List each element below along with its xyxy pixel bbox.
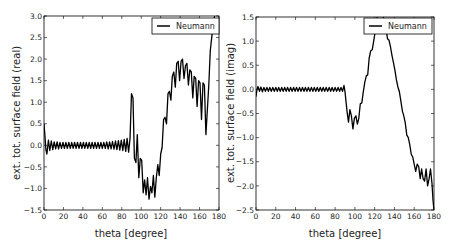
svg-text:2.5: 2.5	[30, 33, 42, 42]
legend-real: Neumann	[152, 18, 219, 34]
svg-text:180: 180	[427, 212, 442, 221]
chart-imag: 020406080100120140160180 −2.5−2.0−1.5−1.…	[225, 7, 441, 239]
svg-text:20: 20	[59, 212, 69, 221]
svg-text:−0.5: −0.5	[24, 163, 42, 172]
svg-text:120: 120	[154, 212, 169, 221]
svg-text:40: 40	[78, 212, 88, 221]
svg-text:0.0: 0.0	[242, 85, 254, 94]
svg-text:60: 60	[311, 212, 321, 221]
svg-text:140: 140	[173, 212, 188, 221]
svg-text:−2.5: −2.5	[236, 206, 254, 215]
legend-label: Neumann	[176, 22, 215, 31]
y-axis-label-real: ext. tot. surface field (real)	[11, 46, 22, 180]
neumann-imag-line	[256, 7, 434, 210]
svg-text:140: 140	[387, 212, 402, 221]
svg-text:3.0: 3.0	[30, 12, 42, 21]
svg-text:180: 180	[212, 212, 227, 221]
chart-real: 020406080100120140160180 −1.5−1.0−0.50.0…	[11, 12, 226, 239]
x-axis-label-imag: theta [degree]	[309, 228, 382, 239]
svg-text:160: 160	[192, 212, 207, 221]
svg-text:1.0: 1.0	[242, 37, 254, 46]
svg-text:0: 0	[254, 212, 259, 221]
svg-text:0.5: 0.5	[30, 119, 42, 128]
svg-text:2.0: 2.0	[30, 55, 42, 64]
svg-text:−0.5: −0.5	[236, 109, 254, 118]
svg-text:−1.5: −1.5	[236, 157, 254, 166]
y-axis-ticks-real: −1.5−1.0−0.50.00.51.01.52.02.53.0	[24, 12, 219, 215]
svg-text:160: 160	[407, 212, 422, 221]
svg-text:1.5: 1.5	[242, 13, 254, 22]
neumann-real-line	[44, 16, 215, 199]
svg-text:120: 120	[368, 212, 383, 221]
svg-text:100: 100	[134, 212, 149, 221]
plot-frame-imag	[256, 17, 434, 210]
svg-text:−1.0: −1.0	[24, 184, 42, 193]
svg-text:1.5: 1.5	[30, 76, 42, 85]
y-axis-label-imag: ext. tot. surface field (imag)	[225, 43, 236, 183]
x-axis-label-real: theta [degree]	[95, 228, 168, 239]
svg-text:80: 80	[330, 212, 340, 221]
legend-imag: Neumann	[364, 18, 432, 34]
svg-text:80: 80	[117, 212, 127, 221]
svg-text:40: 40	[291, 212, 301, 221]
svg-text:100: 100	[348, 212, 363, 221]
legend-label: Neumann	[388, 22, 427, 31]
svg-text:0: 0	[42, 212, 47, 221]
svg-text:1.0: 1.0	[30, 98, 42, 107]
svg-text:−2.0: −2.0	[236, 182, 254, 191]
svg-text:0.0: 0.0	[30, 141, 42, 150]
svg-text:20: 20	[271, 212, 281, 221]
svg-text:−1.5: −1.5	[24, 206, 42, 215]
figure: 020406080100120140160180 −1.5−1.0−0.50.0…	[0, 0, 457, 244]
y-axis-ticks-imag: −2.5−2.0−1.5−1.0−0.50.00.51.01.5	[236, 13, 434, 215]
svg-text:−1.0: −1.0	[236, 133, 254, 142]
svg-text:60: 60	[98, 212, 108, 221]
svg-text:0.5: 0.5	[242, 61, 254, 70]
